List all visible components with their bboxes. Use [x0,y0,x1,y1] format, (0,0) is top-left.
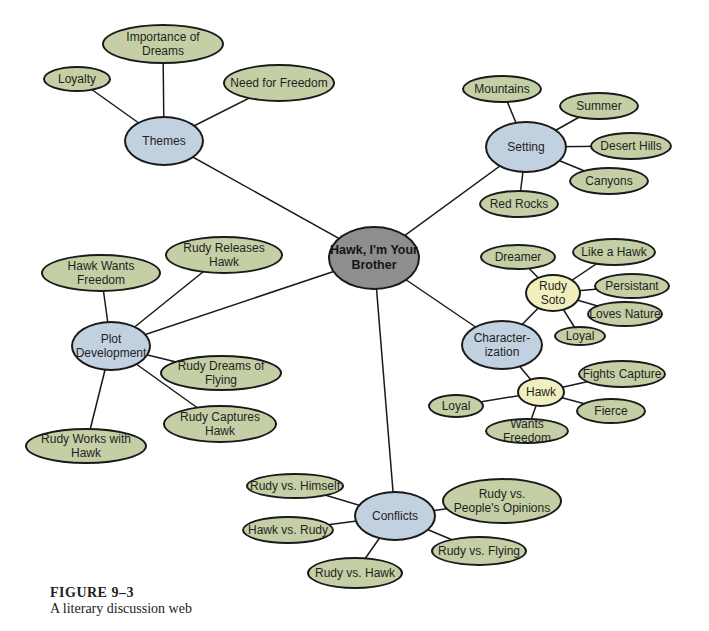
detail-node: Loves Nature [587,301,663,327]
detail-node: Mountains [462,75,542,103]
detail-node: Red Rocks [479,190,559,218]
detail-node: Rudy Dreams of Flying [160,355,282,391]
category-node-setting: Setting [485,121,567,173]
detail-node: Dreamer [480,244,556,270]
detail-node: Need for Freedom [223,64,335,102]
figure-number: FIGURE 9–3 [50,585,192,601]
connector-line [374,258,395,516]
detail-node: Rudy vs. Flying [431,536,527,566]
detail-node: Hawk Wants Freedom [41,254,161,292]
category-node-plot: Plot Development [71,321,151,371]
figure-title: A literary discussion web [50,601,192,617]
detail-node: Rudy vs. Hawk [307,557,403,589]
detail-node: Desert Hills [590,132,672,160]
detail-node: Loyal [554,326,606,346]
detail-node: Summer [559,92,639,120]
detail-node: Fierce [576,398,646,424]
category-node-conflicts: Conflicts [354,491,436,541]
category-node-hawk: Hawk [517,377,565,407]
figure-caption: FIGURE 9–3 A literary discussion web [50,585,192,617]
category-node-characterization: Character- ization [461,320,543,370]
detail-node: Fights Capture [578,360,666,388]
detail-node: Loyalty [43,66,111,92]
detail-node: Wants Freedom [485,418,569,444]
detail-node: Rudy Works with Hawk [25,428,147,464]
detail-node: Rudy vs. Himself [246,473,344,499]
detail-node: Hawk vs. Rudy [242,516,334,544]
central-topic-node: Hawk, I'm Your Brother [328,226,420,290]
category-node-themes: Themes [124,116,204,166]
detail-node: Canyons [569,167,649,195]
detail-node: Importance of Dreams [102,24,224,64]
detail-node: Like a Hawk [572,238,656,266]
detail-node: Loyal [428,394,484,418]
detail-node: Rudy Releases Hawk [165,236,283,274]
detail-node: Rudy Captures Hawk [163,405,277,443]
category-node-rudy-soto: Rudy Soto [525,274,581,312]
detail-node: Rudy vs. People's Opinions [442,478,562,524]
detail-node: Persistant [594,273,670,299]
